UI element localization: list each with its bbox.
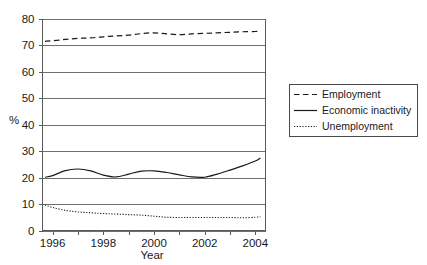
- chart-legend: EmploymentEconomic inactivityUnemploymen…: [290, 85, 418, 137]
- legend-label-employment: Employment: [322, 88, 380, 100]
- x-tick-label-1998: 1998: [91, 237, 117, 249]
- line-chart-figure: 01020304050607080 19961998200020022004 %…: [0, 0, 427, 265]
- x-axis-label: Year: [140, 249, 163, 261]
- legend-label-economic-inactivity: Economic inactivity: [322, 104, 412, 116]
- y-tick-label-20: 20: [22, 172, 35, 184]
- x-tick-label-2000: 2000: [141, 237, 167, 249]
- y-axis-label: %: [9, 114, 19, 126]
- y-tick-label-70: 70: [22, 39, 35, 51]
- y-tick-label-10: 10: [22, 198, 35, 210]
- y-tick-label-40: 40: [22, 119, 35, 131]
- y-tick-labels-group: 01020304050607080: [22, 13, 35, 237]
- legend-label-unemployment: Unemployment: [322, 120, 393, 132]
- y-tick-label-80: 80: [22, 13, 35, 25]
- y-tick-label-0: 0: [28, 225, 34, 237]
- x-tick-label-2004: 2004: [243, 237, 269, 249]
- x-tick-label-2002: 2002: [192, 237, 218, 249]
- y-tick-label-60: 60: [22, 66, 35, 78]
- y-tick-label-30: 30: [22, 145, 35, 157]
- y-tick-label-50: 50: [22, 92, 35, 104]
- x-tick-label-1996: 1996: [40, 237, 66, 249]
